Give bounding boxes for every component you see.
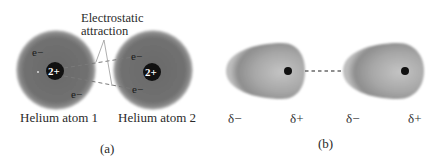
diagram-canvas (0, 0, 448, 163)
nucleus-charge-2: 2+ (145, 65, 157, 79)
electron-1a: e− (32, 45, 43, 59)
distorted-cloud-2 (343, 43, 424, 99)
panel-b-caption: (b) (318, 137, 333, 151)
polarized-atom-2 (343, 43, 424, 99)
partial-charge-1: δ− (228, 111, 241, 127)
annotation-line-2: attraction (81, 25, 143, 38)
partial-charge-4: δ+ (408, 111, 421, 127)
electron-2a: e− (131, 49, 142, 63)
panel-a-caption: (a) (100, 142, 114, 156)
polarized-atom-1 (226, 43, 305, 99)
annotation-pointer (96, 40, 112, 86)
annotation-label: Electrostatic attraction (81, 12, 143, 38)
electron-1b: e− (71, 87, 82, 101)
distorted-cloud-1 (226, 43, 305, 99)
electron-2b: e− (132, 82, 143, 96)
nucleus-b1 (284, 67, 292, 75)
sparkle-dot (37, 71, 39, 73)
atom-2-label: Helium atom 2 (118, 111, 196, 125)
atom-1-label: Helium atom 1 (20, 111, 98, 125)
nucleus-b2 (401, 67, 409, 75)
nucleus-charge-1: 2+ (48, 64, 60, 78)
partial-charge-3: δ− (346, 111, 359, 127)
partial-charge-2: δ+ (290, 111, 303, 127)
